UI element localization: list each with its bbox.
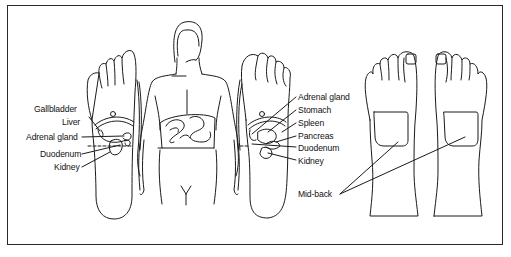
human-torso (139, 22, 240, 205)
label-duodenum-right: Duodenum (298, 144, 339, 153)
reflexology-illustration (0, 0, 511, 257)
label-kidney-right: Kidney (298, 157, 324, 166)
label-kidney-left: Kidney (54, 163, 80, 172)
label-stomach: Stomach (298, 106, 331, 115)
label-adrenal-gland-right: Adrenal gland (298, 93, 350, 102)
label-pancreas: Pancreas (298, 132, 334, 141)
label-duodenum-left: Duodenum (40, 150, 81, 159)
label-liver: Liver (62, 118, 80, 127)
label-spleen: Spleen (298, 119, 324, 128)
dorsal-feet (340, 52, 487, 216)
label-gallbladder: Gallbladder (34, 105, 77, 114)
right-foot-sole (236, 53, 296, 218)
left-foot-sole (82, 51, 141, 219)
label-mid-back: Mid-back (298, 190, 332, 199)
label-adrenal-gland-left: Adrenal gland (26, 133, 78, 142)
